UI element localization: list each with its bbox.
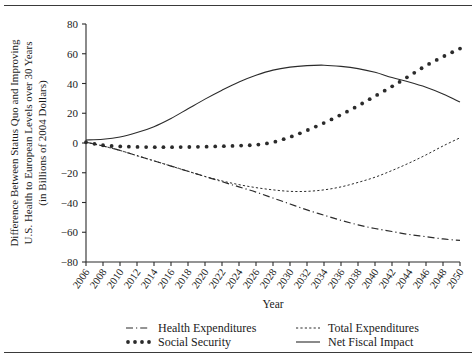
data-point-marker <box>162 145 166 149</box>
data-series-group <box>84 47 462 241</box>
data-point-marker <box>390 84 394 88</box>
data-point-marker <box>136 145 140 149</box>
x-tick-label: 2026 <box>241 267 262 291</box>
y-axis-title: Difference Between Status Quo and Improv… <box>8 39 49 247</box>
legend-item-label: Total Expenditures <box>328 321 419 335</box>
data-point-marker <box>337 114 341 118</box>
data-point-marker <box>256 143 260 147</box>
data-point-marker <box>290 135 294 139</box>
x-tick-label: 2044 <box>394 266 415 290</box>
y-axis-title-line: Difference Between Status Quo and Improv… <box>8 39 20 247</box>
data-point-marker <box>213 145 217 149</box>
x-tick-label: 2034 <box>309 266 330 290</box>
data-point-marker <box>101 143 105 147</box>
data-point-marker <box>170 145 174 149</box>
data-point-marker <box>427 62 431 66</box>
y-axis-title-line: (in Billions of 2004 Dollars) <box>36 80 49 206</box>
data-point-marker <box>239 144 243 148</box>
x-tick-label: 2028 <box>258 267 279 291</box>
data-point-marker <box>144 145 148 149</box>
x-tick-label: 2030 <box>275 267 296 291</box>
data-point-marker <box>306 128 310 132</box>
data-point-marker <box>231 144 235 148</box>
x-tick-label: 2032 <box>292 267 313 291</box>
legend-swatch-dot <box>140 340 144 344</box>
data-point-marker <box>179 145 183 149</box>
data-point-marker <box>93 142 97 146</box>
data-point-marker <box>118 145 122 149</box>
series-line <box>86 138 460 192</box>
series-social-security <box>84 47 462 149</box>
x-tick-label: 2016 <box>156 267 177 291</box>
x-tick-label: 2008 <box>88 267 109 291</box>
x-axis-ticks: 2006200820102012201420162018202020222024… <box>71 262 466 290</box>
x-tick-label: 2022 <box>207 267 228 291</box>
figure-container: Difference Between Status Quo and Improv… <box>0 0 476 362</box>
y-tick-label: −40 <box>61 197 79 209</box>
data-point-marker <box>265 142 269 146</box>
data-point-marker <box>443 54 447 58</box>
x-tick-label: 2010 <box>105 267 126 291</box>
axis-lines <box>86 24 460 262</box>
data-point-marker <box>84 140 88 144</box>
data-point-marker <box>375 93 379 97</box>
data-point-marker <box>222 144 226 148</box>
series-total-expenditures <box>86 138 460 192</box>
x-tick-label: 2046 <box>411 267 432 291</box>
legend-item[interactable]: Health Expenditures <box>126 321 257 335</box>
y-axis-ticks: 806040200−20−40−60−80 <box>61 18 86 268</box>
x-tick-label: 2038 <box>343 267 364 291</box>
data-point-marker <box>187 145 191 149</box>
x-axis-title: Year <box>262 298 283 310</box>
series-line <box>86 65 460 140</box>
x-tick-label: 2036 <box>326 267 347 291</box>
x-tick-label: 2040 <box>360 267 381 291</box>
legend-swatch-dot <box>133 340 137 344</box>
y-tick-label: −80 <box>61 256 79 268</box>
x-tick-label: 2048 <box>428 267 449 291</box>
data-point-marker <box>345 110 349 114</box>
legend-item[interactable]: Net Fiscal Impact <box>296 335 414 349</box>
line-chart: Difference Between Status Quo and Improv… <box>0 0 476 362</box>
data-point-marker <box>205 145 209 149</box>
y-tick-label: 0 <box>73 137 79 149</box>
x-axis-title-text: Year <box>262 298 283 310</box>
y-tick-label: −60 <box>61 226 79 238</box>
x-tick-label: 2006 <box>71 267 92 291</box>
data-point-marker <box>353 106 357 110</box>
data-point-marker <box>153 145 157 149</box>
legend-item-label: Health Expenditures <box>158 321 257 335</box>
x-tick-label: 2050 <box>445 267 466 291</box>
legend-item[interactable]: Total Expenditures <box>296 321 419 335</box>
chart-legend: Health ExpendituresTotal ExpendituresSoc… <box>126 321 419 349</box>
x-tick-label: 2042 <box>377 267 398 291</box>
data-point-marker <box>458 47 462 51</box>
y-tick-label: 80 <box>67 18 79 30</box>
data-point-marker <box>330 118 334 122</box>
data-point-marker <box>127 145 131 149</box>
legend-item[interactable]: Social Security <box>126 335 231 349</box>
data-point-marker <box>273 140 277 144</box>
data-point-marker <box>298 131 302 135</box>
x-tick-label: 2020 <box>190 267 211 291</box>
y-axis-title-line: U.S. Health to European Levels over 30 Y… <box>22 42 34 245</box>
y-tick-label: 40 <box>67 78 79 90</box>
data-point-marker <box>412 71 416 75</box>
legend-item-label: Net Fiscal Impact <box>328 335 414 349</box>
data-point-marker <box>405 75 409 79</box>
legend-item-label: Social Security <box>158 335 231 349</box>
data-point-marker <box>322 121 326 125</box>
x-tick-label: 2012 <box>122 267 143 291</box>
data-point-marker <box>248 143 252 147</box>
data-point-marker <box>398 80 402 84</box>
x-tick-label: 2024 <box>224 266 245 290</box>
data-point-marker <box>368 97 372 101</box>
data-point-marker <box>282 137 286 141</box>
data-point-marker <box>420 66 424 70</box>
legend-swatch-dot <box>126 340 130 344</box>
series-net-fiscal-impact <box>86 65 460 140</box>
data-point-marker <box>435 58 439 62</box>
data-point-marker <box>360 102 364 106</box>
x-tick-label: 2014 <box>139 266 160 290</box>
y-tick-label: 60 <box>67 48 79 60</box>
